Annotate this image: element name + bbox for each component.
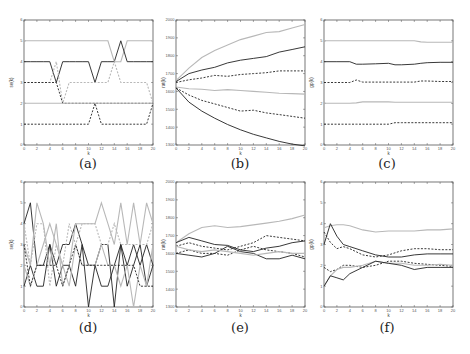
x-tick-label: 14 — [112, 308, 117, 313]
x-tick-label: 18 — [138, 146, 143, 151]
y-tick-label: 5 — [320, 38, 323, 43]
y-tick-label: 4 — [20, 59, 23, 64]
x-tick-label: 2 — [36, 146, 39, 151]
x-tick-label: 8 — [374, 146, 377, 151]
x-tick-label: 12 — [399, 146, 404, 151]
y-tick-label: 1300 — [166, 142, 176, 147]
y-tick-label: 1500 — [166, 269, 176, 274]
x-tick-label: 4 — [49, 146, 52, 151]
x-tick-label: 14 — [264, 146, 269, 151]
x-tick-label: 6 — [62, 308, 65, 313]
x-tick-label: 16 — [425, 146, 430, 151]
x-tick-label: 4 — [349, 308, 352, 313]
y-tick-label: 4 — [20, 221, 23, 226]
y-tick-label: 1600 — [166, 89, 176, 94]
x-tick-label: 2 — [36, 308, 39, 313]
y-tick-label: 6 — [20, 17, 23, 22]
x-tick-label: 14 — [112, 146, 117, 151]
plot-frame — [176, 20, 305, 145]
y-tick-label: 1900 — [166, 35, 176, 40]
y-axis-label: gp(k) — [309, 77, 314, 88]
y-tick-label: 1600 — [166, 251, 176, 256]
x-tick-label: 16 — [277, 308, 282, 313]
y-tick-label: 2000 — [166, 17, 176, 22]
x-tick-label: 20 — [451, 308, 456, 313]
y-tick-label: 1800 — [166, 215, 176, 220]
y-tick-label: 1 — [20, 284, 23, 289]
y-tick-label: 1400 — [166, 125, 176, 130]
y-tick-label: 4 — [320, 59, 323, 64]
x-tick-label: 8 — [74, 146, 77, 151]
x-tick-label: 16 — [277, 146, 282, 151]
y-axis-label: se(k) — [9, 239, 14, 250]
x-tick-label: 20 — [451, 146, 456, 151]
x-tick-label: 12 — [399, 308, 404, 313]
x-tick-label: 8 — [226, 308, 229, 313]
y-tick-label: 2 — [20, 101, 23, 106]
y-tick-label: 3 — [320, 80, 323, 85]
x-tick-label: 6 — [362, 146, 365, 151]
y-tick-label: 1 — [320, 122, 323, 127]
x-axis-label: k — [87, 313, 90, 318]
chart-a: 024681012141618200123456kse(k) — [0, 0, 156, 152]
y-tick-label: 1800 — [166, 53, 176, 58]
chart-d: 024681012141618200123456kse(k) — [0, 162, 156, 314]
x-tick-label: 0 — [23, 308, 26, 313]
y-tick-label: 2 — [320, 101, 323, 106]
y-tick-label: 1400 — [166, 287, 176, 292]
x-tick-label: 16 — [125, 146, 130, 151]
x-axis-label: k — [239, 313, 242, 318]
x-axis-label: k — [387, 313, 390, 318]
y-tick-label: 5 — [320, 200, 323, 205]
caption-d: (d) — [68, 320, 108, 335]
x-tick-label: 12 — [99, 146, 104, 151]
y-axis-label: rat(k) — [161, 239, 166, 250]
y-tick-label: 1 — [20, 122, 23, 127]
y-tick-label: 5 — [20, 38, 23, 43]
y-tick-label: 1300 — [166, 304, 176, 309]
subplot-e: 0246810121416182013001400150016001700180… — [152, 162, 308, 342]
x-tick-label: 0 — [323, 308, 326, 313]
chart-e: 0246810121416182013001400150016001700180… — [152, 162, 308, 314]
x-tick-label: 14 — [264, 308, 269, 313]
y-tick-label: 5 — [20, 200, 23, 205]
x-tick-label: 6 — [214, 146, 217, 151]
x-tick-label: 2 — [336, 146, 339, 151]
x-tick-label: 8 — [74, 308, 77, 313]
chart-b: 0246810121416182013001400150016001700180… — [152, 0, 308, 152]
x-tick-label: 16 — [425, 308, 430, 313]
x-tick-label: 14 — [412, 146, 417, 151]
y-tick-label: 2000 — [166, 179, 176, 184]
x-tick-label: 18 — [138, 308, 143, 313]
subplot-b: 0246810121416182013001400150016001700180… — [152, 0, 308, 175]
x-tick-label: 16 — [125, 308, 130, 313]
x-tick-label: 4 — [49, 308, 52, 313]
y-tick-label: 2 — [320, 263, 323, 268]
x-tick-label: 2 — [188, 308, 191, 313]
x-tick-label: 14 — [412, 308, 417, 313]
x-tick-label: 0 — [323, 146, 326, 151]
x-tick-label: 18 — [290, 146, 295, 151]
y-tick-label: 6 — [320, 179, 323, 184]
x-tick-label: 4 — [349, 146, 352, 151]
x-tick-label: 8 — [226, 146, 229, 151]
x-tick-label: 2 — [336, 308, 339, 313]
caption-f: (f) — [367, 320, 407, 335]
x-tick-label: 0 — [175, 146, 178, 151]
y-tick-label: 1 — [320, 284, 323, 289]
x-tick-label: 6 — [62, 146, 65, 151]
y-tick-label: 3 — [20, 242, 23, 247]
x-tick-label: 8 — [374, 308, 377, 313]
x-tick-label: 12 — [251, 308, 256, 313]
x-tick-label: 4 — [201, 146, 204, 151]
x-tick-label: 18 — [438, 146, 443, 151]
y-tick-label: 1900 — [166, 197, 176, 202]
x-tick-label: 12 — [99, 308, 104, 313]
y-tick-label: 3 — [20, 80, 23, 85]
subplot-f: 024681012141618200123456kgp(k) (f) — [300, 162, 460, 342]
x-tick-label: 2 — [188, 146, 191, 151]
x-tick-label: 12 — [251, 146, 256, 151]
caption-e: (e) — [220, 320, 260, 335]
x-tick-label: 4 — [201, 308, 204, 313]
y-tick-label: 6 — [20, 179, 23, 184]
